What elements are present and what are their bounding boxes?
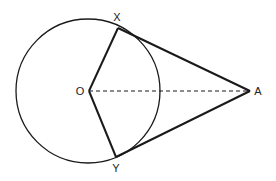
- tangent-YA: [116, 91, 250, 157]
- label-Y: Y: [112, 162, 120, 174]
- radius-OY: [89, 91, 116, 157]
- radius-OX: [89, 28, 118, 91]
- tangent-XA: [118, 28, 250, 91]
- label-A: A: [254, 85, 262, 97]
- tangent-diagram: X O Y A: [0, 0, 276, 181]
- label-X: X: [113, 11, 121, 23]
- label-O: O: [76, 85, 85, 97]
